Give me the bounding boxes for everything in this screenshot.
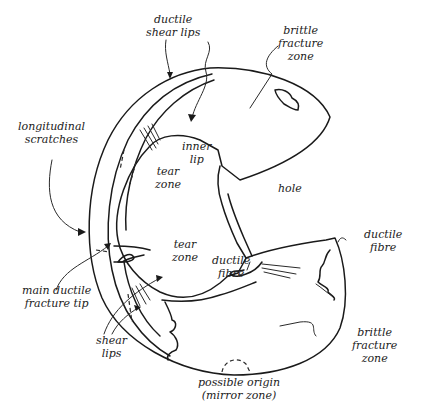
leader-ductile-shear-lips-a [165, 40, 170, 74]
arrow-head [188, 114, 196, 122]
label-line: hole [278, 182, 302, 195]
label-ductile-shear-lips: ductile shear lips [146, 13, 200, 39]
label-line: longitudinal [18, 120, 85, 133]
label-line: (mirror zone) [198, 389, 280, 402]
label-inner-lip: inner lip [182, 140, 211, 166]
leader-brittle-top [250, 46, 278, 108]
label-line: lips [96, 347, 127, 360]
label-line: lip [182, 153, 211, 166]
label-line: brittle [278, 24, 323, 37]
label-line: brittle [352, 326, 397, 339]
label-line: tear [155, 165, 181, 178]
label-brittle-fracture-zone-bottom: brittle fracture zone [352, 326, 397, 365]
leader-longitudinal-scratches [49, 160, 80, 232]
label-line: fracture [278, 37, 323, 50]
leader-ductile-shear-lips-b [192, 42, 210, 118]
label-brittle-fracture-zone-top: brittle fracture zone [278, 24, 323, 63]
label-ductile-fibre-outer: ductile fibre [364, 228, 402, 254]
label-main-ductile-fracture-tip: main ductile fracture tip [22, 284, 91, 310]
scratch-3 [148, 126, 158, 144]
label-line: zone [278, 50, 323, 63]
mirror-zone-arc [222, 360, 250, 372]
label-tear-zone-upper: tear zone [155, 165, 181, 191]
arrow-head [104, 243, 111, 250]
label-shear-lips: shear lips [96, 334, 127, 360]
lower-brittle-edge [162, 282, 256, 301]
upper-jagged-mark [275, 89, 299, 110]
label-tear-zone-lower: tear zone [172, 238, 198, 264]
label-line: ductile [146, 13, 200, 26]
label-ductile-fibre-inner: ductile fibre [212, 254, 250, 280]
label-line: zone [352, 352, 397, 365]
label-line: fracture [352, 339, 397, 352]
fibre-streak-3 [264, 272, 290, 278]
label-line: scratches [18, 133, 85, 146]
label-line: possible origin [198, 376, 280, 389]
label-possible-origin: possible origin (mirror zone) [198, 376, 280, 402]
label-line: zone [172, 251, 198, 264]
fibre-streak-1 [262, 264, 300, 268]
scratch-4 [152, 124, 160, 140]
label-line: shear [96, 334, 127, 347]
right-jagged-mark [318, 250, 335, 300]
label-longitudinal-scratches: longitudinal scratches [18, 120, 85, 146]
label-line: fracture tip [22, 297, 91, 310]
lower-jagged-edge [165, 302, 178, 360]
label-line: main ductile [22, 284, 91, 297]
label-hole: hole [278, 182, 302, 195]
arrow-head [78, 228, 86, 236]
label-line: inner [182, 140, 211, 153]
arrow-head [156, 275, 163, 282]
label-line: tear [172, 238, 198, 251]
label-line: fibre [212, 267, 250, 280]
label-line: fibre [364, 241, 402, 254]
leader-brittle-bottom [280, 322, 316, 336]
label-line: zone [155, 178, 181, 191]
label-line: ductile [364, 228, 402, 241]
outer-contour [89, 68, 345, 375]
label-line: shear lips [146, 26, 200, 39]
label-line: ductile [212, 254, 250, 267]
leader-ductile-fibre-outer [338, 238, 346, 242]
